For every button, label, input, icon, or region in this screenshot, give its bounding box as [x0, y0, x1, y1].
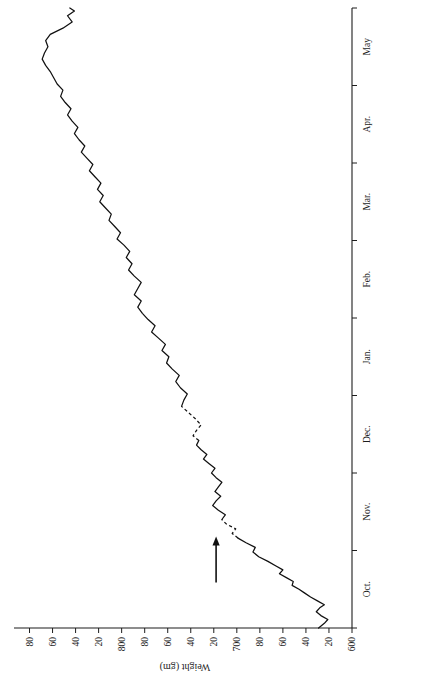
y-tick-label: 80 [255, 637, 265, 647]
series-line-interpolated [222, 520, 238, 539]
rotated-figure-wrapper: 600204060807002040608080020406080 Weight… [0, 0, 421, 680]
x-month-label: Apr. [362, 116, 372, 133]
x-axis: Oct.Nov.Dec.Jan.Feb.Mar.Apr.May [352, 8, 372, 628]
annotation-group [212, 537, 219, 583]
series-line [42, 8, 187, 406]
series-line-interpolated [182, 406, 202, 440]
x-axis-ticks [352, 8, 357, 628]
y-axis-title: Weight (gm) [160, 661, 211, 673]
weight-line-chart: 600204060807002040608080020406080 Weight… [0, 0, 421, 680]
series-line [197, 440, 226, 519]
y-tick-label: 60 [48, 637, 58, 647]
y-tick-label: 80 [140, 637, 150, 647]
y-tick-label: 40 [71, 637, 81, 647]
y-tick-label: 60 [163, 637, 173, 647]
y-tick-label: 40 [186, 637, 196, 647]
y-axis: 600204060807002040608080020406080 Weight… [14, 628, 357, 673]
chart-plot-area: 600204060807002040608080020406080 Weight… [0, 0, 421, 680]
x-month-label: Mar. [362, 193, 372, 211]
y-axis-tick-labels: 600204060807002040608080020406080 [25, 637, 357, 652]
marker-arrow-head [212, 537, 219, 546]
series-line [238, 538, 328, 628]
x-month-label: Oct. [362, 581, 372, 597]
x-month-label: Feb. [362, 271, 372, 288]
y-tick-label: 20 [94, 637, 104, 647]
x-month-label: Nov. [362, 503, 372, 521]
x-month-label: May [362, 38, 372, 56]
y-axis-ticks [30, 628, 352, 633]
x-axis-month-labels: Oct.Nov.Dec.Jan.Feb.Mar.Apr.May [362, 38, 372, 597]
y-tick-label: 40 [301, 637, 311, 647]
x-month-label: Jan. [362, 349, 372, 364]
data-series-group [42, 8, 328, 628]
y-tick-label: 20 [209, 637, 219, 647]
y-tick-label: 60 [278, 637, 288, 647]
y-tick-label: 80 [25, 637, 35, 647]
y-tick-label: 600 [347, 637, 357, 652]
y-tick-label: 800 [117, 637, 127, 652]
y-tick-label: 700 [232, 637, 242, 652]
y-tick-label: 20 [324, 637, 334, 647]
x-month-label: Dec. [362, 425, 372, 443]
